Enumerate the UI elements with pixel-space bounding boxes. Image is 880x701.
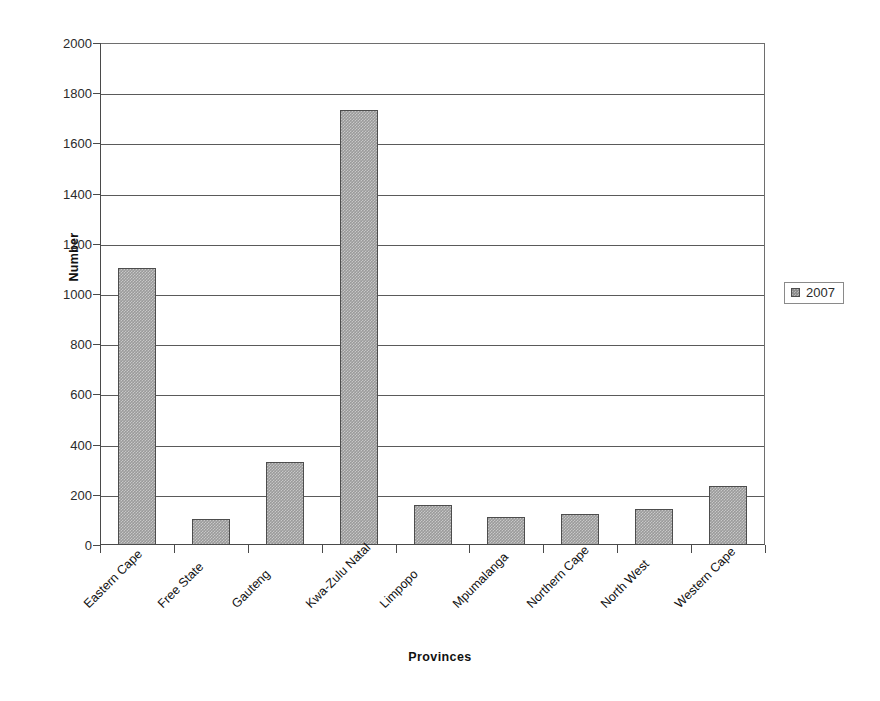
legend-swatch-2007 (791, 288, 800, 297)
y-tick-label-400: 400 (70, 437, 92, 452)
legend-label-2007: 2007 (806, 286, 835, 299)
x-tick-label-eastern-cape: Eastern Cape (81, 547, 145, 611)
y-tick-label-2000: 2000 (63, 36, 92, 51)
bar (118, 268, 156, 545)
bar (709, 486, 747, 545)
chart-legend: 2007 (784, 282, 844, 304)
bar-series-2007 (100, 43, 765, 545)
x-tick-mark-2 (248, 545, 249, 553)
bar (561, 514, 599, 545)
x-tick-label-northern-cape: Northern Cape (524, 543, 592, 611)
x-tick-label-north-west: North West (598, 557, 652, 611)
x-tick-mark-8 (691, 545, 692, 553)
x-tick-label-kwa-zulu-natal: Kwa-Zulu Natal (303, 541, 373, 611)
x-tick-label-gauteng: Gauteng (229, 567, 273, 611)
x-tick-mark-0 (100, 545, 101, 553)
x-tick-mark-5 (469, 545, 470, 553)
y-tick-label-600: 600 (70, 387, 92, 402)
x-tick-label-free-state: Free State (155, 560, 206, 611)
bar (414, 505, 452, 545)
y-tick-label-1000: 1000 (63, 287, 92, 302)
bar (266, 462, 304, 545)
bar (340, 110, 378, 545)
bar (192, 519, 230, 545)
y-tick-label-1800: 1800 (63, 86, 92, 101)
x-tick-mark-1 (174, 545, 175, 553)
x-tick-mark-6 (543, 545, 544, 553)
x-tick-mark-7 (617, 545, 618, 553)
x-tick-mark-9 (765, 545, 766, 553)
bar (635, 509, 673, 545)
y-tick-label-1200: 1200 (63, 236, 92, 251)
y-tick-label-1600: 1600 (63, 136, 92, 151)
x-tick-mark-3 (322, 545, 323, 553)
bar-chart: Number 020040060080010001200140016001800… (0, 0, 880, 701)
x-axis-title: Provinces (0, 650, 880, 664)
x-tick-mark-4 (396, 545, 397, 553)
y-tick-label-200: 200 (70, 487, 92, 502)
y-tick-label-800: 800 (70, 337, 92, 352)
x-tick-label-limpopo: Limpopo (377, 567, 421, 611)
bar (487, 517, 525, 545)
y-tick-label-1400: 1400 (63, 186, 92, 201)
x-tick-label-western-cape: Western Cape (672, 545, 738, 611)
x-tick-label-mpumalanga: Mpumalanga (450, 550, 511, 611)
y-tick-label-0: 0 (85, 538, 92, 553)
